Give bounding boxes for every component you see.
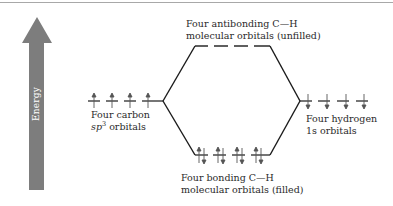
antibonding-label-line2: molecular orbitals (unfilled) [186, 30, 321, 42]
hydrogen-label-line1: Four hydrogen [306, 113, 377, 125]
antibonding-label-line1: Four antibonding C—H [186, 18, 321, 30]
carbon-label: Four carbon sp3 orbitals [91, 109, 150, 133]
bonding-levels [195, 147, 270, 164]
correlation-lines [163, 46, 300, 155]
carbon-rest-text: orbitals [106, 121, 146, 132]
energy-axis-label: Energy [31, 87, 41, 121]
bonding-label-line1: Four bonding C—H [181, 172, 303, 184]
antibonding-label: Four antibonding C—H molecular orbitals … [186, 18, 321, 42]
carbon-sp-text: sp [91, 121, 102, 132]
hydrogen-1s-levels [300, 94, 368, 109]
carbon-label-line1: Four carbon [91, 109, 150, 121]
carbon-sp3-levels [88, 93, 163, 108]
bonding-label-line2: molecular orbitals (filled) [181, 184, 303, 196]
bonding-label: Four bonding C—H molecular orbitals (fil… [181, 172, 303, 196]
carbon-label-line2: sp3 orbitals [91, 121, 150, 133]
hydrogen-label-line2: 1s orbitals [306, 125, 377, 137]
hydrogen-label: Four hydrogen 1s orbitals [306, 113, 377, 137]
